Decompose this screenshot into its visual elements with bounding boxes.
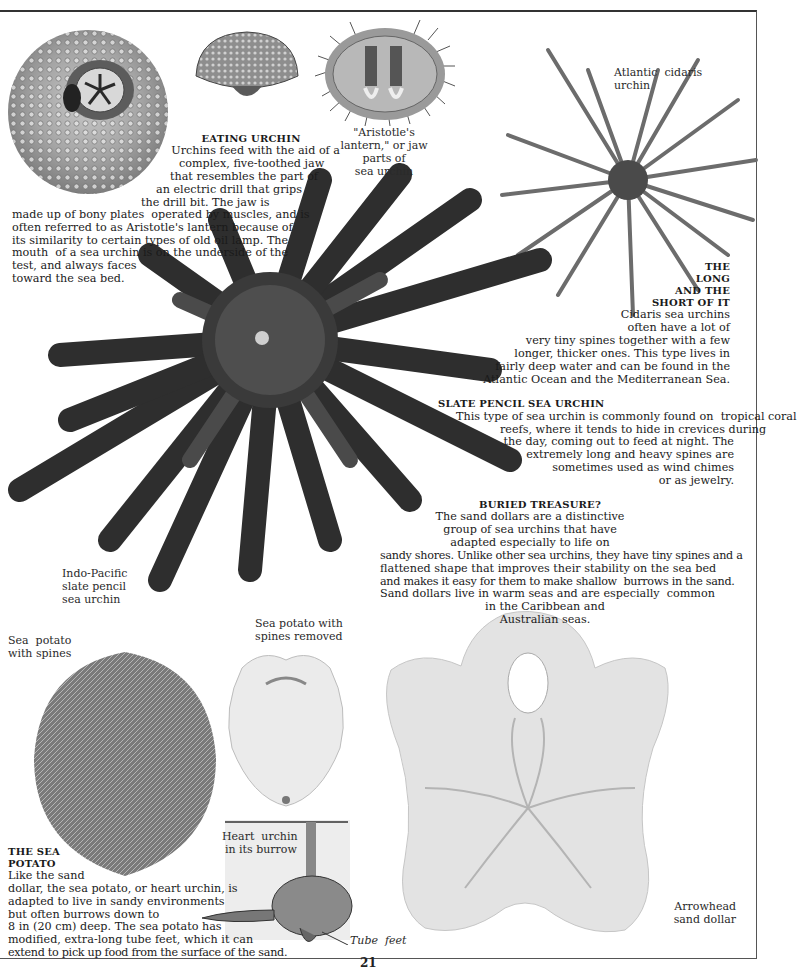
eating-urchin-line-7: often referred to as Aristotle's lantern… [12, 221, 293, 234]
buried-treasure-line-2: group of sea urchins that have [370, 523, 690, 536]
long-short-line-6: Atlantic Ocean and the Mediterranean Sea… [440, 373, 730, 386]
buried-treasure-line-4: sandy shores. Unlike other sea urchins, … [380, 549, 710, 562]
eating-urchin-line-10: test, and always faces [12, 259, 137, 272]
slate-pencil-heading: SLATE PENCIL SEA URCHIN [438, 397, 604, 410]
sea-potato-line-3: adapted to live in sandy environments [8, 895, 225, 908]
sea-potato-line-1: Like the sand [8, 869, 85, 882]
sea-potato-line-6: modified, extra-long tube feet, which it… [8, 933, 253, 946]
atlantic-cidaris-caption-2: urchin [614, 79, 650, 92]
sea-potato-removed-image [222, 648, 350, 808]
page-number: 21 [360, 956, 377, 968]
sea-potato-spines-caption-2: with spines [8, 647, 71, 660]
sea-potato-line-5: 8 in (20 cm) deep. The sea potato has [8, 920, 222, 933]
eating-urchin-line-3: that resembles the part of [170, 170, 318, 183]
slate-pencil-line-6: or as jewelry. [500, 474, 734, 487]
sea-potato-line-7: extend to pick up food from the surface … [8, 946, 287, 959]
arrowhead-sand-dollar-image [385, 608, 675, 938]
slate-pencil-line-4: extremely long and heavy spines are [500, 448, 734, 461]
eating-urchin-line-2: complex, five-toothed jaw [179, 157, 324, 170]
sea-potato-removed-caption-2: spines removed [255, 630, 343, 643]
arrowhead-caption-1: Arrowhead [640, 900, 736, 913]
buried-treasure-line-5: flattened shape that improves their stab… [380, 562, 710, 575]
aristotles-lantern-caption-4: sea urchin [326, 165, 442, 178]
indo-pacific-caption-3: sea urchin [62, 593, 120, 606]
sea-potato-removed-caption-1: Sea potato with [255, 617, 343, 630]
eating-urchin-line-1: Urchins feed with the aid of a [170, 144, 340, 157]
sea-potato-line-2: dollar, the sea potato, or heart urchin,… [8, 882, 238, 895]
buried-treasure-line-1: The sand dollars are a distinctive [370, 510, 690, 523]
aristotles-lantern-caption-3: parts of [326, 152, 442, 165]
sea-potato-spines-caption-1: Sea potato [8, 634, 71, 647]
slate-pencil-line-3: the day, coming out to feed at night. Th… [500, 435, 734, 448]
indo-pacific-caption-1: Indo-Pacific [62, 567, 127, 580]
indo-pacific-caption-2: slate pencil [62, 580, 126, 593]
eating-urchin-line-4: an electric drill that grips [156, 183, 302, 196]
long-short-line-4: longer, thicker ones. This type lives in [470, 347, 730, 360]
heart-urchin-caption-2: in its burrow [225, 843, 297, 856]
slate-pencil-line-5: sometimes used as wind chimes [500, 461, 734, 474]
eating-urchin-line-6: made up of bony plates operated by muscl… [12, 208, 310, 221]
buried-treasure-line-9: Australian seas. [380, 613, 710, 626]
long-short-line-2: often have a lot of [500, 321, 730, 334]
arrowhead-caption-2: sand dollar [640, 913, 736, 926]
long-short-line-1: Cidaris sea urchins [500, 308, 730, 321]
heart-urchin-caption-1: Heart urchin [222, 830, 298, 843]
urchin-side-image [192, 26, 302, 106]
atlantic-cidaris-caption-1: Atlantic cidaris [614, 66, 702, 79]
aristotles-lantern-caption-2: lantern," or jaw [326, 139, 442, 152]
tube-feet-caption: Tube feet [350, 934, 406, 947]
eating-urchin-line-11: toward the sea bed. [12, 272, 125, 285]
heart-urchin-burrow-diagram [200, 800, 360, 945]
buried-treasure-line-3: adapted especially to life on [370, 536, 690, 549]
aristotles-lantern-image [310, 16, 460, 128]
buried-treasure-line-8: in the Caribbean and [380, 600, 710, 613]
buried-treasure-line-7: Sand dollars live in warm seas and are e… [380, 587, 710, 600]
long-short-line-5: fairly deep water and can be found in th… [440, 360, 730, 373]
eating-urchin-line-9: mouth of a sea urchin is on the undersid… [12, 246, 288, 259]
long-short-line-3: very tiny spines together with a few [470, 334, 730, 347]
aristotles-lantern-caption-1: "Aristotle's [326, 126, 442, 139]
slate-pencil-line-1: This type of sea urchin is commonly foun… [456, 410, 797, 423]
